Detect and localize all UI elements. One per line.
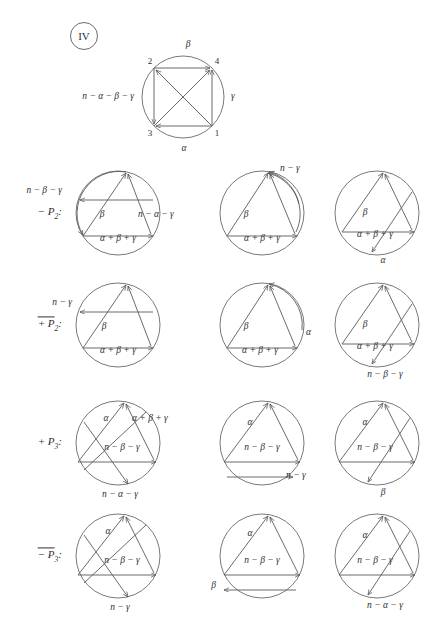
row-label-plus-p3: + P3:: [38, 435, 62, 450]
cell-r2c1-label-0: n − γ: [52, 298, 72, 308]
diagram-canvas: [0, 0, 443, 620]
cell-r1c1-label-3: α + β + γ: [100, 234, 136, 244]
cell-r3c3-label-1: n − β − γ: [357, 443, 393, 453]
top-vertex-3: 3: [148, 128, 153, 138]
top-label-gamma: γ: [231, 92, 235, 102]
row-label-text: + P: [38, 317, 55, 329]
row-label-text: + P: [38, 435, 55, 447]
row-label-minus-p2: − P2:: [38, 205, 62, 220]
cell-r1c2-label-2: α + β + γ: [244, 234, 280, 244]
cell-r3c3-label-2: β: [381, 488, 386, 498]
row-label-suffix: :: [58, 317, 62, 329]
top-label-alpha: α: [182, 144, 187, 154]
top-label-beta: β: [186, 40, 191, 50]
cell-r3c3-label-0: α: [363, 418, 368, 428]
cell-r3c1-label-2: n − β − γ: [104, 443, 140, 453]
row-label-plus-p2-bar: + P2:: [38, 317, 62, 332]
cell-r1c1-label-2: n − α − γ: [138, 210, 174, 220]
cell-r4c3-label-0: α: [363, 531, 368, 541]
cell-r4c2-label-1: n − β − γ: [244, 556, 280, 566]
cell-r3c1-label-0: α: [104, 414, 109, 424]
cell-r1c1-label-0: n − β − γ: [26, 186, 62, 196]
top-vertex-1: 1: [215, 128, 220, 138]
figure-root: IV 2 4 3 1 β γ α n − α − β − γ − P2: + P…: [0, 0, 443, 620]
cell-r2c1-label-2: α + β + γ: [100, 346, 136, 356]
top-vertex-4: 4: [215, 56, 220, 66]
cell-r2c1-label-1: β: [102, 322, 107, 332]
top-vertex-2: 2: [148, 56, 153, 66]
cell-r2c2-label-1: α: [306, 328, 311, 338]
cell-r4c2-label-2: β: [211, 581, 216, 591]
row-label-suffix: :: [58, 435, 62, 447]
cell-r4c1-label-1: n − β − γ: [104, 556, 140, 566]
cell-r1c3-label-1: α + β + γ: [357, 230, 393, 240]
row-label-suffix: :: [58, 548, 62, 560]
cell-r3c1-label-1: α + β + γ: [132, 414, 168, 424]
cell-r2c3-label-2: n − β − γ: [367, 370, 403, 380]
cell-r2c3-label-0: β: [363, 320, 368, 330]
cell-r4c2-label-0: α: [248, 529, 253, 539]
cell-r4c1-label-2: n − γ: [110, 603, 130, 613]
top-diagram-group: [142, 56, 224, 138]
cell-r3c2-label-1: n − β − γ: [244, 443, 280, 453]
cell-r4c3-label-1: n − β − γ: [357, 556, 393, 566]
top-label-remainder: n − α − β − γ: [82, 92, 134, 102]
row-label-suffix: :: [58, 205, 62, 217]
cell-r2c2-label-0: β: [244, 322, 249, 332]
cell-r4c1-label-0: α: [106, 527, 111, 537]
panel-tag-roman: IV: [70, 22, 98, 50]
cell-r3c2-label-0: α: [248, 418, 253, 428]
cell-r1c2-label-1: β: [244, 210, 249, 220]
cell-r1c3-label-0: β: [363, 208, 368, 218]
cell-r1c1-label-1: β: [100, 210, 105, 220]
row-label-minus-p3-bar: − P3:: [38, 548, 62, 563]
cell-r3c2-label-2: n − γ: [286, 471, 306, 481]
cell-r2c2-label-2: α + β + γ: [242, 346, 278, 356]
row-label-text: − P: [38, 548, 55, 560]
cell-r3c1-label-3: n − α − γ: [102, 490, 138, 500]
cell-r1c2-label-0: n − γ: [280, 164, 300, 174]
cell-r4c3-label-2: n − α − γ: [367, 601, 403, 611]
cell-r1c3-label-2: α: [381, 256, 386, 266]
cell-r2c3-label-1: α + β + γ: [357, 342, 393, 352]
row-label-text: − P: [38, 205, 55, 217]
